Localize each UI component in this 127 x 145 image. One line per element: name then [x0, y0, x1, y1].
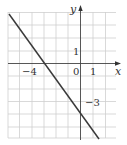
tick-label-x-neg: −4 — [22, 66, 37, 77]
y-axis-arrow-icon — [78, 5, 82, 11]
coordinate-graph: y x −4 0 1 1 −3 — [0, 0, 127, 145]
tick-label-x-pos: 1 — [90, 66, 96, 77]
tick-label-y-pos: 1 — [73, 46, 79, 57]
x-axis-label: x — [115, 65, 122, 78]
tick-label-y-neg: −3 — [85, 97, 100, 108]
tick-label-origin: 0 — [73, 66, 79, 77]
y-axis-label: y — [69, 3, 77, 16]
